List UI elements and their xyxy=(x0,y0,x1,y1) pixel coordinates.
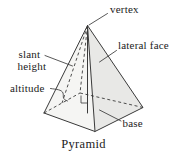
slant-height-label-line2: height xyxy=(18,60,47,72)
vertex-pointer xyxy=(89,14,108,26)
base-label: base xyxy=(123,117,143,129)
altitude-label: altitude xyxy=(10,82,45,94)
pyramid-diagram: vertex lateral face slant height altitud… xyxy=(0,0,176,157)
slant-height-pointer xyxy=(45,56,73,67)
slant-height-label-line1: slant xyxy=(19,48,41,60)
vertex-label: vertex xyxy=(110,3,139,15)
pyramid-figure: vertex lateral face slant height altitud… xyxy=(0,0,176,157)
figure-caption: Pyramid xyxy=(61,137,106,151)
lateral-face-label: lateral face xyxy=(118,39,169,51)
